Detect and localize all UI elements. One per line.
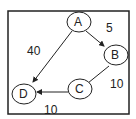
node-label-d: D [19, 88, 28, 100]
node-label-c: C [75, 83, 84, 95]
edge-a-b [86, 31, 104, 46]
edge-weight-a-b: 5 [106, 22, 113, 34]
node-label-a: A [74, 16, 82, 28]
edge-b-c [88, 66, 109, 83]
node-label-b: B [111, 49, 119, 61]
edge-weight-b-c: 10 [110, 78, 123, 90]
edge-weight-c-d: 10 [44, 104, 57, 116]
edge-weight-a-d: 40 [27, 45, 40, 57]
